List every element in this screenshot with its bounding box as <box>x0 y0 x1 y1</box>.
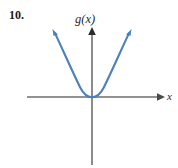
y-axis-label: g(x) <box>75 13 95 26</box>
x-axis-arrowhead <box>157 93 165 101</box>
y-axis-arrowhead <box>88 27 96 35</box>
parabola-right-arrowhead <box>126 29 132 36</box>
figure-container: 10. g(x) x <box>0 0 178 168</box>
x-axis-label: x <box>167 90 172 103</box>
parabola-left-arrowhead <box>52 29 58 36</box>
